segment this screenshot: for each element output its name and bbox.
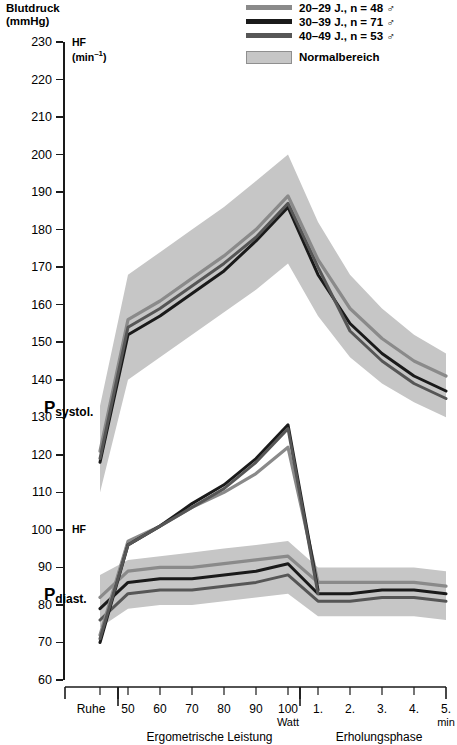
series-line xyxy=(100,425,318,643)
series-line xyxy=(100,207,446,462)
series-line xyxy=(100,556,446,597)
p-systolic-main: P xyxy=(44,398,55,417)
hf-axis-note: HF (min–1) xyxy=(72,36,107,63)
y-axis-tick xyxy=(56,304,63,306)
series-line xyxy=(100,564,446,609)
series-line xyxy=(100,203,446,458)
y-axis-tick-label: 180 xyxy=(16,224,52,236)
legend-series-30-39: 30–39 J., n = 71 ♂ xyxy=(246,15,456,28)
chart-page: Blutdruck (mmHg) 20–29 J., n = 48 ♂ 30–3… xyxy=(0,0,457,745)
hf-unit: (min–1) xyxy=(72,48,107,63)
y-axis-tick-label: 100 xyxy=(16,524,52,536)
legend-swatch-band xyxy=(246,51,292,64)
series-line xyxy=(100,429,318,639)
y-axis-tick-label: 210 xyxy=(16,111,52,123)
y-axis-tick xyxy=(56,341,63,343)
y-axis-tick xyxy=(56,266,63,268)
x-axis-unit-min: min xyxy=(420,716,457,728)
p-diastolic-label: Pdiast. xyxy=(44,585,87,605)
y-axis-tick-label: 200 xyxy=(16,149,52,161)
y-axis-tick xyxy=(56,191,63,193)
legend: 20–29 J., n = 48 ♂ 30–39 J., n = 71 ♂ 40… xyxy=(246,1,456,65)
legend-swatch-line xyxy=(246,5,292,10)
hf-label: HF xyxy=(72,36,107,48)
chart-plot-area xyxy=(0,0,457,745)
p-systolic-sub: systol. xyxy=(55,405,93,419)
x-axis-group-exercise: Ergometrische Leistung xyxy=(119,730,300,744)
y-axis-tick-label: 120 xyxy=(16,449,52,461)
series-line xyxy=(100,575,446,620)
y-axis-tick xyxy=(56,642,63,644)
y-axis-tick-label: 90 xyxy=(16,561,52,573)
normal-range-band xyxy=(100,541,446,627)
y-axis-tick-label: 150 xyxy=(16,336,52,348)
y-axis-tick xyxy=(56,567,63,569)
y-axis-tick-label: 220 xyxy=(16,74,52,86)
p-diastolic-main: P xyxy=(44,585,55,604)
series-line xyxy=(100,196,446,451)
y-axis-tick xyxy=(56,41,63,43)
y-axis-tick-label: 110 xyxy=(16,486,52,498)
series-line xyxy=(100,447,318,635)
y-axis-tick xyxy=(56,379,63,381)
y-axis-tick xyxy=(56,79,63,81)
legend-label: 30–39 J., n = 71 ♂ xyxy=(299,16,395,28)
p-systolic-label: Psystol. xyxy=(44,398,93,418)
legend-swatch-line xyxy=(246,19,292,24)
y-axis-tick xyxy=(56,229,63,231)
legend-normal-range: Normalbereich xyxy=(246,49,456,65)
x-axis-group-recovery: Erholungsphase xyxy=(301,730,457,744)
y-axis-tick xyxy=(56,454,63,456)
legend-label: 20–29 J., n = 48 ♂ xyxy=(299,2,395,14)
y-axis-tick-label: 190 xyxy=(16,186,52,198)
y-axis-tick xyxy=(56,116,63,118)
y-axis-tick-label: 230 xyxy=(16,36,52,48)
legend-label: 40–49 J., n = 53 ♂ xyxy=(299,30,395,42)
hf-curve-label: HF xyxy=(72,523,86,535)
y-axis-tick xyxy=(56,679,63,681)
y-axis-labels: 2302202102001901801701601501401301201101… xyxy=(12,0,52,745)
legend-label: Normalbereich xyxy=(299,51,380,63)
y-axis-tick-label: 70 xyxy=(16,636,52,648)
y-axis-tick-label: 140 xyxy=(16,374,52,386)
y-axis-tick xyxy=(56,154,63,156)
y-axis-tick xyxy=(56,529,63,531)
y-axis-tick-label: 60 xyxy=(16,674,52,686)
legend-series-40-49: 40–49 J., n = 53 ♂ xyxy=(246,29,456,42)
legend-swatch-line xyxy=(246,33,292,38)
y-axis-tick-label: 160 xyxy=(16,299,52,311)
y-axis-tick-label: 170 xyxy=(16,261,52,273)
p-diastolic-sub: diast. xyxy=(55,592,86,606)
x-axis-unit-watt: Watt xyxy=(262,716,314,728)
x-axis-tick-label: 5. xyxy=(420,702,457,716)
y-axis-tick xyxy=(56,492,63,494)
x-axis: Ruhe50607080901001.2.3.4.5.WattminErgome… xyxy=(0,686,457,745)
legend-series-20-29: 20–29 J., n = 48 ♂ xyxy=(246,1,456,14)
normal-range-band xyxy=(100,155,446,493)
